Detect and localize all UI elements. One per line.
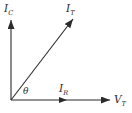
ic-label: IC xyxy=(3,2,13,17)
it-label: IT xyxy=(65,2,75,17)
ir-label-sub: R xyxy=(62,89,68,97)
phasor-diagram-svg: IC IT IR VT θ xyxy=(0,0,132,113)
theta-label: θ xyxy=(23,86,29,96)
vt-label: VT xyxy=(114,93,127,108)
ic-label-sub: C xyxy=(8,9,13,17)
it-label-sub: T xyxy=(70,9,75,17)
vt-label-sub: T xyxy=(122,100,127,108)
phasor-diagram: IC IT IR VT θ xyxy=(0,0,132,113)
vector-labels: IC IT IR VT θ xyxy=(3,2,127,108)
ir-arrowhead-icon xyxy=(59,97,67,103)
ir-label: IR xyxy=(58,82,68,97)
